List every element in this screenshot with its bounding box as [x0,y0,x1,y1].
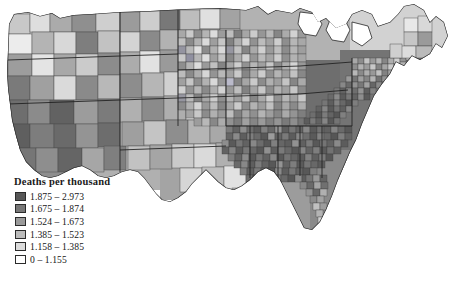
legend-label: 1.675 – 1.874 [30,203,84,214]
legend: Deaths per thousand 1.875 – 2.973 1.675 … [12,176,142,266]
legend-swatch [15,242,26,251]
legend-swatch [15,230,26,239]
legend-label: 1.875 – 2.973 [30,191,84,202]
legend-label: 1.524 – 1.673 [30,216,84,227]
legend-label: 1.158 – 1.385 [30,241,84,252]
legend-item: 1.875 – 2.973 [12,190,142,203]
legend-item: 0 – 1.155 [12,253,142,266]
legend-item: 1.385 – 1.523 [12,228,142,241]
counties-plains [178,30,306,126]
legend-label: 0 – 1.155 [30,254,67,265]
legend-swatch [15,255,26,264]
figure-page: Deaths per thousand 1.875 – 2.973 1.675 … [0,0,461,281]
legend-swatch [15,204,26,213]
legend-item: 1.158 – 1.385 [12,240,142,253]
legend-item: 1.524 – 1.673 [12,215,142,228]
legend-swatch [15,192,26,201]
legend-label: 1.385 – 1.523 [30,229,84,240]
legend-item: 1.675 – 1.874 [12,203,142,216]
legend-title: Deaths per thousand [14,176,142,187]
legend-swatch [15,217,26,226]
